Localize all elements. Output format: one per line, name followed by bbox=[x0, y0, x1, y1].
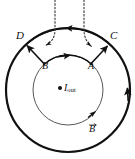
label-field-vector: B bbox=[89, 124, 95, 134]
label-point-d: D bbox=[16, 30, 24, 41]
current-out-of-page-dot bbox=[58, 86, 62, 90]
field-vector-symbol-wrap: B bbox=[89, 124, 95, 134]
label-point-c: C bbox=[110, 30, 117, 41]
label-point-b-inner: B bbox=[42, 61, 48, 71]
field-vector-letter: B bbox=[89, 123, 95, 134]
inner-lower-right-arrow bbox=[88, 112, 96, 118]
label-point-a-inner: A bbox=[88, 61, 94, 71]
current-subscript: out bbox=[67, 86, 76, 93]
inner-top-arc-segment bbox=[43, 55, 93, 65]
dotted-field-line-right bbox=[84, 0, 92, 47]
outer-top-arc-arrow bbox=[66, 28, 78, 29]
outer-right-arc-arrow bbox=[127, 88, 128, 101]
physics-figure: D C B A Iout B bbox=[0, 0, 135, 159]
dotted-field-line-left bbox=[46, 0, 56, 46]
figure-canvas bbox=[0, 0, 135, 159]
label-current-out: Iout bbox=[64, 83, 76, 94]
outer-top-arc-segment bbox=[25, 28, 112, 46]
